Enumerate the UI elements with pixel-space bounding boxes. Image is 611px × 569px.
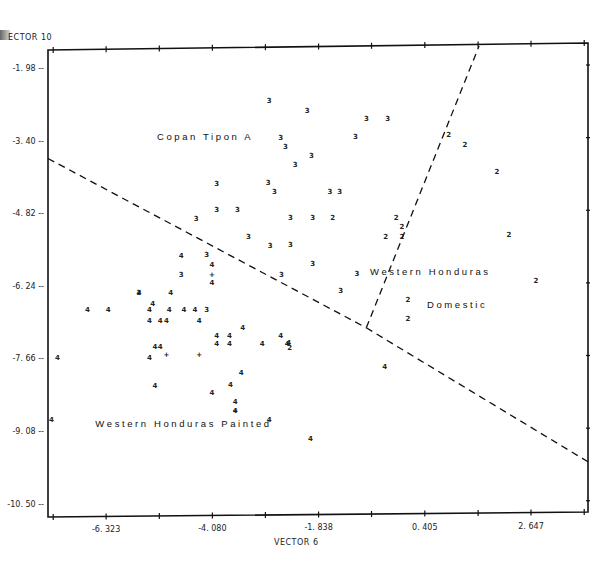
data-point-group-4: 4 — [240, 324, 245, 332]
y-tick-label: -10. 50 -- — [7, 500, 44, 509]
data-point-group-4: 4 — [182, 306, 187, 314]
data-point-group-4: 4 — [106, 306, 111, 314]
data-point-group-3: 3 — [364, 115, 369, 123]
data-point-group-2: 2 — [399, 223, 404, 231]
data-point-group-4: 4 — [209, 279, 214, 287]
y-axis-ticks: -1. 98 ---3. 40 ---4. 82 ---6. 24 ---7. … — [7, 64, 590, 509]
x-tick-label: -1. 838 — [304, 523, 332, 532]
y-tick-label: -6. 24 -- — [12, 282, 44, 291]
data-point-group-4: 4 — [192, 306, 197, 314]
data-point-group-3: 3 — [204, 251, 209, 259]
x-tick-label: -4. 080 — [198, 524, 226, 533]
region-label: Western Honduras — [370, 266, 491, 277]
data-point-group-3: 3 — [385, 115, 390, 123]
data-point-group-4: 4 — [85, 306, 90, 314]
data-point-group-4: 4 — [137, 289, 142, 297]
boundary-left — [48, 159, 366, 328]
data-point-group-3: 3 — [279, 271, 284, 279]
data-point-group-2: 2 — [533, 277, 538, 285]
data-point-group-4: 4 — [167, 306, 172, 314]
data-point-group-3: 3 — [337, 188, 342, 196]
data-point-group-4: 4 — [233, 398, 238, 406]
data-point-group-2: 2 — [462, 141, 467, 149]
data-point-group-4: 4 — [197, 317, 202, 325]
data-point-group-3: 3 — [354, 270, 359, 278]
y-axis-title: ECTOR 10 — [8, 33, 52, 42]
x-axis-ticks: -6. 323-4. 080-1. 8380. 4052. 647 — [53, 40, 584, 534]
data-point-group-3: 3 — [283, 143, 288, 151]
boundary-right — [366, 46, 479, 328]
data-point-group-3: 3 — [309, 152, 314, 160]
data-point-group-4: 4 — [153, 382, 158, 390]
data-point-group-4: 4 — [164, 317, 169, 325]
data-point-group-3: 3 — [293, 161, 298, 169]
data-point-group-3: 3 — [338, 287, 343, 295]
data-point-group-3: 3 — [353, 133, 358, 141]
data-point-group-3: 3 — [204, 306, 209, 314]
data-point-group-4: 4 — [260, 340, 265, 348]
data-point-group-2: 2 — [506, 231, 511, 239]
data-point-group-4: 4 — [209, 389, 214, 397]
x-axis-title: VECTOR 6 — [274, 538, 319, 547]
scatter-plot: -6. 323-4. 080-1. 8380. 4052. 647 -1. 98… — [0, 0, 611, 569]
data-point-group-3: 3 — [327, 188, 332, 196]
data-point-group-3: 3 — [179, 271, 184, 279]
data-point-group-3: 3 — [266, 179, 271, 187]
data-point-group-2: 2 — [406, 296, 411, 304]
data-point-group-4: 4 — [228, 381, 233, 389]
data-point-group-mean: + — [232, 407, 238, 415]
data-point-group-4: 4 — [209, 261, 214, 269]
data-point-group-4: 4 — [278, 332, 283, 340]
data-point-group-2: 2 — [394, 214, 399, 222]
plot-frame — [48, 43, 588, 517]
data-point-group-4: 4 — [308, 435, 313, 443]
data-point-group-3: 3 — [272, 188, 277, 196]
data-point-group-2: 2 — [330, 214, 335, 222]
y-tick-label: -7. 66 -- — [12, 354, 44, 363]
data-point-group-3: 3 — [194, 215, 199, 223]
data-point-group-4: 4 — [147, 306, 152, 314]
data-point-group-2: 2 — [495, 168, 500, 176]
data-point-group-4: 4 — [55, 354, 60, 362]
plot-border — [48, 43, 588, 517]
data-point-group-3: 3 — [288, 241, 293, 249]
data-point-group-2: 2 — [446, 131, 451, 139]
region-label: Western Honduras Painted — [95, 418, 271, 429]
y-tick-label: -4. 82 -- — [12, 209, 44, 218]
data-point-group-4: 4 — [49, 416, 54, 424]
data-point-group-4: 4 — [147, 354, 152, 362]
data-point-group-mean: + — [163, 351, 169, 359]
data-point-group-4: 4 — [214, 340, 219, 348]
region-label: Domestic — [427, 299, 487, 310]
data-point-group-4: 4 — [147, 317, 152, 325]
data-point-group-4: 4 — [285, 340, 290, 348]
data-point-group-4: 4 — [179, 252, 184, 260]
data-point-group-4: 4 — [168, 289, 173, 297]
data-point-group-3: 3 — [214, 180, 219, 188]
data-point-group-4: 4 — [382, 363, 387, 371]
data-point-group-2: 2 — [383, 233, 388, 241]
data-point-group-2: 2 — [406, 315, 411, 323]
data-point-group-3: 3 — [246, 233, 251, 241]
data-point-group-3: 3 — [268, 242, 273, 250]
x-tick-label: -6. 323 — [92, 525, 120, 534]
data-point-group-3: 3 — [278, 134, 283, 142]
data-point-group-mean: + — [196, 351, 202, 359]
y-tick-label: -1. 98 -- — [12, 64, 44, 73]
data-point-group-4: 4 — [239, 369, 244, 377]
data-point-group-3: 3 — [267, 97, 272, 105]
data-point-group-4: 4 — [267, 416, 272, 424]
classification-boundaries — [48, 46, 588, 462]
data-point-group-4: 4 — [158, 343, 163, 351]
data-point-group-4: 4 — [227, 340, 232, 348]
y-tick-label: -3. 40 -- — [12, 137, 44, 146]
data-point-group-3: 3 — [288, 214, 293, 222]
data-point-group-3: 3 — [305, 107, 310, 115]
data-point-group-3: 3 — [310, 214, 315, 222]
data-point-group-mean: + — [209, 271, 215, 279]
x-tick-label: 2. 647 — [518, 522, 543, 531]
boundary-lower-right — [366, 328, 588, 462]
data-point-group-3: 3 — [214, 206, 219, 214]
region-label: Copan Tipon A — [157, 131, 253, 142]
data-point-group-3: 3 — [235, 206, 240, 214]
